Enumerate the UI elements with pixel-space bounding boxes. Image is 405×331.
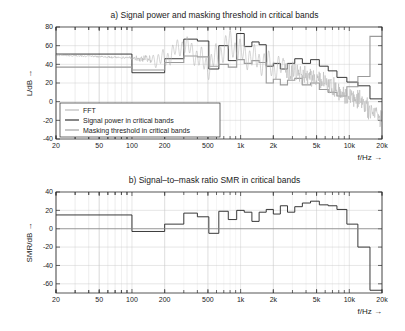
panel-b-xtick-200: 200 (159, 296, 171, 303)
panel-b-ylabel: SMR/dB → (25, 222, 34, 262)
panel-a-xtick-2k: 2k (270, 142, 278, 149)
panel-b-ytick--60: -60 (43, 280, 53, 287)
panel-a-ytick-80: 80 (45, 23, 53, 30)
panel-a-xtick-200: 200 (159, 142, 171, 149)
panel-b-xtick-10k: 10k (344, 296, 356, 303)
panel-b-ytick-0: 0 (49, 225, 53, 232)
panel-b-xtick-2k: 2k (270, 296, 278, 303)
figure-root: a) Signal power and masking threshold in… (0, 0, 405, 331)
chart-panel-a: a) Signal power and masking threshold in… (0, 0, 405, 166)
panel-a-legend-label-2: Masking threshold in critical bands (83, 127, 190, 135)
panel-b-xlabel: f/Hz → (358, 307, 382, 316)
panel-a-title: a) Signal power and masking threshold in… (111, 10, 319, 20)
chart-panel-b: b) Signal–to–mask ratio SMR in critical … (0, 165, 405, 331)
panel-a-xtick-20: 20 (52, 142, 60, 149)
panel-b-ytick--40: -40 (43, 262, 53, 269)
panel-a-xtick-50: 50 (95, 142, 103, 149)
panel-a-ytick--40: -40 (43, 135, 53, 142)
panel-b-title: b) Signal–to–mask ratio SMR in critical … (129, 175, 301, 185)
panel-a-legend: FFTSignal power in critical bandsMasking… (60, 103, 220, 137)
panel-a-ytick--20: -20 (43, 117, 53, 124)
panel-b-ytick--20: -20 (43, 243, 53, 250)
panel-b-plot-frame (56, 192, 382, 293)
panel-a-xtick-500: 500 (202, 142, 214, 149)
panel-a-svg: a) Signal power and masking threshold in… (0, 0, 405, 166)
panel-a-xtick-1k: 1k (237, 142, 245, 149)
panel-a-xlabel: f/Hz → (358, 153, 382, 162)
panel-b-xtick-1k: 1k (237, 296, 245, 303)
panel-b-xtick-20: 20 (52, 296, 60, 303)
panel-a-xtick-10k: 10k (344, 142, 356, 149)
panel-a-ytick-0: 0 (49, 98, 53, 105)
panel-a-ytick-60: 60 (45, 42, 53, 49)
panel-a-xtick-5k: 5k (313, 142, 321, 149)
panel-b-ytick-20: 20 (45, 207, 53, 214)
panel-b-xtick-100: 100 (126, 296, 138, 303)
panel-b-series-smr-in-critical-bands (56, 201, 382, 290)
panel-b-ytick-40: 40 (45, 188, 53, 195)
panel-a-legend-label-1: Signal power in critical bands (83, 117, 174, 125)
panel-b-xtick-20k: 20k (376, 296, 388, 303)
panel-b-svg: b) Signal–to–mask ratio SMR in critical … (0, 165, 405, 331)
panel-a-xtick-20k: 20k (376, 142, 388, 149)
panel-a-ytick-20: 20 (45, 79, 53, 86)
panel-b-xtick-5k: 5k (313, 296, 321, 303)
panel-b-xtick-500: 500 (202, 296, 214, 303)
panel-a-xtick-100: 100 (126, 142, 138, 149)
panel-b-xtick-50: 50 (95, 296, 103, 303)
panel-a-ytick-40: 40 (45, 61, 53, 68)
panel-a-legend-label-0: FFT (83, 107, 97, 114)
panel-a-ylabel: L/dB → (25, 70, 34, 97)
